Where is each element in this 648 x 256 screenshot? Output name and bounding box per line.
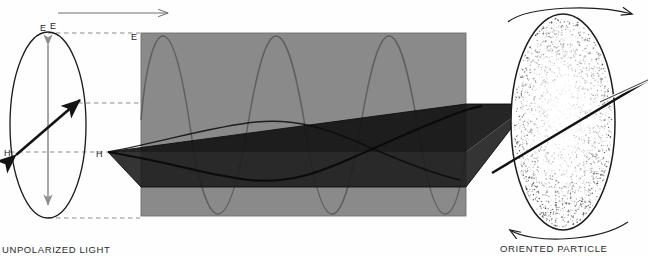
particle-stipple xyxy=(505,10,625,236)
h-axis-label: H xyxy=(4,148,11,158)
unpolarized-light-cross-section: E H xyxy=(4,23,86,218)
propagation-slab: E H xyxy=(96,32,530,216)
polarized-light-figure: E E H xyxy=(0,0,648,256)
e-axis-label: E xyxy=(40,23,46,33)
propagation-arrow-label: E xyxy=(50,21,56,31)
unpolarized-light-caption: UNPOLARIZED LIGHT xyxy=(2,244,110,255)
propagation-direction-arrow: E xyxy=(50,13,168,31)
oriented-particle xyxy=(492,8,648,239)
oriented-particle-caption: ORIENTED PARTICLE xyxy=(500,243,608,254)
figure-canvas: E E H xyxy=(0,0,648,256)
slab-h-corner-label: H xyxy=(96,149,103,159)
slab-e-corner-label: E xyxy=(131,32,137,42)
